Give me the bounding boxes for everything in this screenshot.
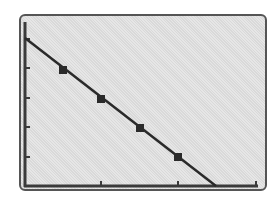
axes	[24, 22, 258, 187]
data-point	[97, 95, 105, 103]
data-point	[59, 66, 67, 74]
data-point	[136, 124, 144, 132]
data-point	[174, 153, 182, 161]
data-line	[25, 38, 216, 186]
line-chart	[0, 0, 278, 206]
